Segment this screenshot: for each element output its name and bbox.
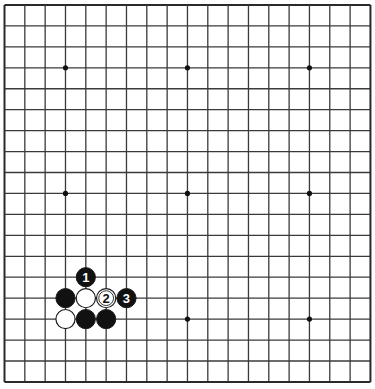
move-number: 3 — [123, 291, 130, 306]
move-number: 2 — [103, 291, 110, 306]
black-stone-move-3[interactable]: 3 — [117, 289, 136, 308]
stone-disc — [56, 289, 75, 308]
stone-disc — [97, 310, 116, 329]
go-board[interactable]: 123 — [0, 0, 375, 389]
black-stone[interactable] — [97, 310, 116, 329]
stone-disc — [76, 310, 95, 329]
star-point — [185, 65, 190, 70]
black-stone[interactable] — [76, 310, 95, 329]
star-point — [185, 191, 190, 196]
black-stone-move-1[interactable]: 1 — [76, 268, 95, 287]
star-point — [307, 191, 312, 196]
star-point — [63, 65, 68, 70]
star-point — [185, 317, 190, 322]
star-point — [63, 191, 68, 196]
star-point — [307, 317, 312, 322]
star-point — [307, 65, 312, 70]
black-stone[interactable] — [56, 289, 75, 308]
white-stone-move-2[interactable]: 2 — [97, 289, 116, 308]
move-number: 1 — [82, 270, 89, 285]
stone-disc — [56, 310, 75, 329]
white-stone[interactable] — [56, 310, 75, 329]
stone-disc — [76, 289, 95, 308]
white-stone[interactable] — [76, 289, 95, 308]
